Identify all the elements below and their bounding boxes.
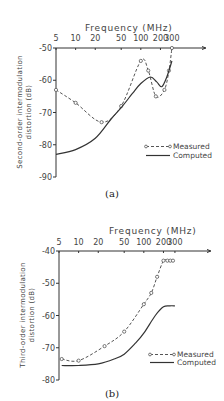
- x-tick-label: 10: [71, 34, 81, 43]
- x-tick-label: 10: [74, 238, 84, 247]
- data-point-circle-icon: [54, 88, 57, 91]
- x-tick-label: 300: [164, 34, 179, 43]
- chart-b-third-order: Frequency (MHz)5102050100200300-40-50-60…: [19, 226, 216, 399]
- legend-computed-label: Computed: [173, 151, 212, 160]
- data-point-circle-icon: [154, 95, 157, 98]
- figure: Frequency (MHz)5102050100200300-50-60-70…: [0, 0, 224, 401]
- data-point-circle-icon: [139, 59, 142, 62]
- data-point-circle-icon: [162, 259, 165, 262]
- chart-a-series-measured: [56, 48, 172, 122]
- x-tick-label: 50: [119, 238, 129, 247]
- y-tick-label: -50: [42, 279, 55, 288]
- x-tick-label: 300: [167, 238, 182, 247]
- legend-measured-label: Measured: [173, 142, 210, 151]
- data-point-circle-icon: [150, 291, 153, 294]
- y-tick-label: -60: [39, 76, 52, 85]
- data-point-circle-icon: [123, 330, 126, 333]
- chart-a-second-order: Frequency (MHz)5102050100200300-50-60-70…: [16, 23, 212, 199]
- chart-b-ylabel-line1: Third-order intermodulation: [19, 262, 27, 368]
- chart-a-title: Frequency (MHz): [85, 23, 173, 33]
- y-tick-label: -80: [42, 376, 55, 385]
- x-tick-label: 5: [53, 34, 58, 43]
- y-tick-label: -90: [39, 173, 52, 182]
- circle-icon: [149, 353, 152, 356]
- chart-a-ylabel-line1: Second-order intermodulation: [16, 55, 24, 169]
- chart-b-legend: MeasuredComputed: [149, 350, 217, 367]
- data-point-circle-icon: [163, 88, 166, 91]
- data-point-circle-icon: [60, 357, 63, 360]
- data-point-circle-icon: [77, 359, 80, 362]
- circle-icon: [169, 145, 172, 148]
- chart-a-series-computed: [56, 61, 172, 154]
- y-tick-label: -40: [42, 247, 55, 256]
- data-point-circle-icon: [74, 101, 77, 104]
- circle-icon: [145, 145, 148, 148]
- x-tick-label: 100: [133, 34, 148, 43]
- chart-a-legend: MeasuredComputed: [145, 142, 213, 160]
- x-tick-label: 20: [90, 34, 100, 43]
- data-point-circle-icon: [147, 69, 150, 72]
- chart-b-title: Frequency (MHz): [109, 226, 197, 236]
- y-tick-label: -70: [39, 109, 52, 118]
- x-tick-label: 100: [136, 238, 151, 247]
- y-tick-label: -50: [39, 44, 52, 53]
- data-point-circle-icon: [103, 345, 106, 348]
- data-point-circle-icon: [170, 46, 173, 49]
- x-tick-label: 50: [116, 34, 126, 43]
- legend-computed-label: Computed: [177, 358, 216, 367]
- y-tick-label: -70: [42, 344, 55, 353]
- circle-icon: [173, 353, 176, 356]
- chart-b-series-computed: [62, 306, 175, 366]
- x-tick-label: 20: [93, 238, 103, 247]
- chart-b-series-measured: [62, 260, 173, 362]
- y-tick-label: -60: [42, 312, 55, 321]
- data-point-circle-icon: [156, 275, 159, 278]
- data-point-circle-icon: [171, 259, 174, 262]
- data-point-circle-icon: [142, 303, 145, 306]
- chart-a-ylabel-line2: distortion (dB): [25, 85, 33, 140]
- x-tick-label: 5: [56, 238, 61, 247]
- chart-b-caption: (b): [105, 388, 119, 399]
- data-point-circle-icon: [100, 121, 103, 124]
- chart-b-ylabel-line2: distortion (dB): [28, 288, 36, 343]
- chart-a-caption: (a): [105, 188, 119, 199]
- y-tick-label: -80: [39, 141, 52, 150]
